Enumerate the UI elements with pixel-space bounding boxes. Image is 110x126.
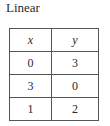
- cell-x: 0: [10, 52, 52, 75]
- table-row: 1 2: [10, 98, 99, 121]
- table-title: Linear: [6, 1, 40, 15]
- header-x: x: [10, 29, 52, 52]
- cell-x: 3: [10, 75, 52, 98]
- header-row: x y: [10, 29, 99, 52]
- cell-y: 2: [52, 98, 99, 121]
- cell-y: 3: [52, 52, 99, 75]
- cell-y: 0: [52, 75, 99, 98]
- cell-x: 1: [10, 98, 52, 121]
- table-row: 0 3: [10, 52, 99, 75]
- table-row: 3 0: [10, 75, 99, 98]
- xy-values-table: x y 0 3 3 0 1 2: [9, 28, 99, 121]
- header-y: y: [52, 29, 99, 52]
